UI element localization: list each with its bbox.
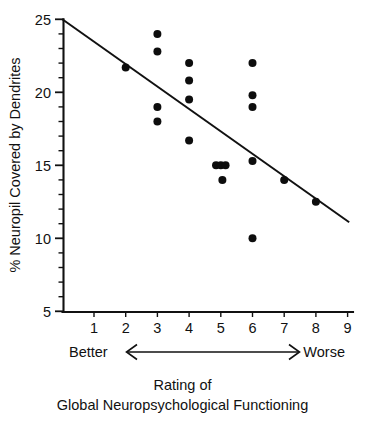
worse-label: Worse: [303, 344, 345, 360]
better-label: Better: [69, 344, 108, 360]
data-point: [249, 234, 257, 242]
x-tick-label: 7: [280, 320, 288, 336]
x-axis-caption-line1: Rating of: [153, 377, 212, 393]
data-point: [249, 91, 257, 99]
data-point: [249, 103, 257, 111]
y-tick-label: 25: [35, 12, 51, 28]
y-axis-title: % Neuropil Covered by Dendrites: [7, 57, 23, 272]
data-point: [312, 198, 320, 206]
y-tick-label: 20: [35, 85, 51, 101]
x-axis-tick-labels: 1 2 3 4 5 6 7 8 9: [90, 320, 352, 336]
y-tick-label: 10: [35, 231, 51, 247]
data-point: [249, 157, 257, 165]
data-point: [153, 118, 161, 126]
data-point: [218, 176, 226, 184]
x-tick-label: 5: [217, 320, 225, 336]
scatter-plot-figure: % Neuropil Covered by Dendrites: [0, 0, 365, 421]
x-tick-label: 4: [185, 320, 193, 336]
data-point: [280, 176, 288, 184]
data-point: [122, 63, 130, 71]
data-point: [185, 77, 193, 85]
y-tick-label: 5: [43, 304, 51, 320]
x-tick-label: 3: [153, 320, 161, 336]
x-tick-label: 9: [344, 320, 352, 336]
data-point: [249, 59, 257, 67]
neuropil-vs-rating-scatter-chart: % Neuropil Covered by Dendrites: [0, 0, 365, 421]
y-tick-label: 15: [35, 158, 51, 174]
data-point: [185, 136, 193, 144]
x-tick-label: 1: [90, 320, 98, 336]
data-point: [153, 103, 161, 111]
data-point: [222, 161, 230, 169]
data-point: [185, 59, 193, 67]
data-point: [153, 47, 161, 55]
data-point: [185, 96, 193, 104]
x-tick-label: 2: [122, 320, 130, 336]
x-tick-label: 8: [312, 320, 320, 336]
x-axis-caption-line2: Global Neuropsychological Functioning: [57, 397, 308, 413]
x-tick-label: 6: [248, 320, 256, 336]
data-point: [153, 30, 161, 38]
